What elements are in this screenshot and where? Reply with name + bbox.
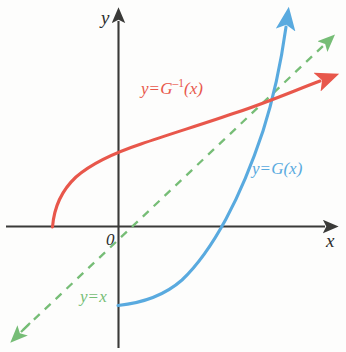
inverse-function-label: y=G–1(x) bbox=[141, 78, 203, 97]
function-label-equals: = bbox=[260, 159, 272, 178]
function-label-lhs: y bbox=[252, 159, 260, 178]
graph-figure: y x 0 y=G–1(x) y=G(x) y=x bbox=[0, 0, 346, 352]
identity-label-lhs: y bbox=[80, 287, 88, 306]
origin-label: 0 bbox=[106, 231, 115, 248]
function-label-arg: (x) bbox=[283, 159, 302, 178]
inverse-label-fn: G bbox=[160, 79, 172, 98]
identity-label-fn: x bbox=[99, 287, 107, 306]
function-label-fn: G bbox=[271, 159, 283, 178]
inverse-label-exponent: –1 bbox=[172, 77, 184, 90]
identity-line-arrow-lower bbox=[21, 323, 30, 332]
function-label: y=G(x) bbox=[252, 160, 302, 177]
curve-inverse-function-g bbox=[53, 81, 321, 227]
inverse-label-equals: = bbox=[149, 79, 161, 98]
identity-label-equals: = bbox=[88, 287, 100, 306]
y-axis-label: y bbox=[101, 8, 109, 27]
inverse-label-lhs: y bbox=[141, 79, 149, 98]
identity-line-label: y=x bbox=[80, 288, 107, 305]
x-axis-label: x bbox=[326, 231, 334, 250]
inverse-label-arg: (x) bbox=[184, 79, 203, 98]
